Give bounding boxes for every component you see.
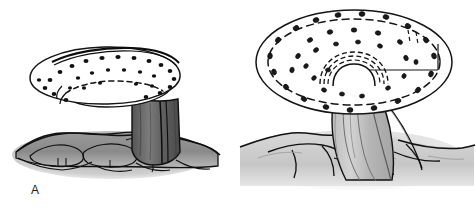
panel-b-illustration xyxy=(238,0,476,208)
panel-label-a: A xyxy=(31,184,40,196)
panel-b: B xyxy=(238,0,476,208)
panel-a: A xyxy=(0,0,238,208)
cap xyxy=(256,10,452,114)
ground xyxy=(16,132,220,172)
stalk xyxy=(132,98,180,165)
panel-a-illustration xyxy=(0,0,238,208)
cap xyxy=(30,47,180,107)
figure-root: A xyxy=(0,0,476,208)
